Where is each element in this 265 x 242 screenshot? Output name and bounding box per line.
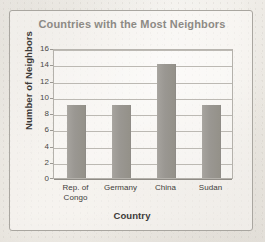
y-tick-label-4: 4 bbox=[15, 143, 49, 151]
y-tick-label-16: 16 bbox=[15, 45, 49, 53]
y-tick-label-2: 2 bbox=[15, 159, 49, 167]
gridline-0 bbox=[54, 179, 232, 180]
y-tick-label-14: 14 bbox=[15, 61, 49, 69]
y-tick-label-0: 0 bbox=[15, 175, 49, 183]
y-tick-label-12: 12 bbox=[15, 78, 49, 86]
y-tick-label-10: 10 bbox=[15, 94, 49, 102]
gridline-12 bbox=[54, 83, 232, 84]
bar-germany bbox=[112, 105, 131, 178]
scanned-page: Countries with the Most Neighbors Number… bbox=[0, 0, 265, 242]
y-tick-label-8: 8 bbox=[15, 110, 49, 118]
plot-area bbox=[53, 49, 233, 179]
gridline-10 bbox=[54, 99, 232, 100]
x-category-label-0: Rep. ofCongo bbox=[53, 183, 98, 202]
chart-title: Countries with the Most Neighbors bbox=[10, 18, 254, 30]
y-tick-label-6: 6 bbox=[15, 126, 49, 134]
x-category-label-3: Sudan bbox=[188, 183, 233, 193]
bar-rep-of-congo bbox=[67, 105, 86, 178]
x-axis-title: Country bbox=[10, 210, 254, 221]
gridline-14 bbox=[54, 66, 232, 67]
x-category-label-2: China bbox=[143, 183, 188, 193]
bar-sudan bbox=[202, 105, 221, 178]
x-category-label-1: Germany bbox=[98, 183, 143, 193]
gridline-16 bbox=[54, 50, 232, 51]
bar-china bbox=[157, 64, 176, 178]
chart-figure-frame: Countries with the Most Neighbors Number… bbox=[9, 10, 253, 231]
